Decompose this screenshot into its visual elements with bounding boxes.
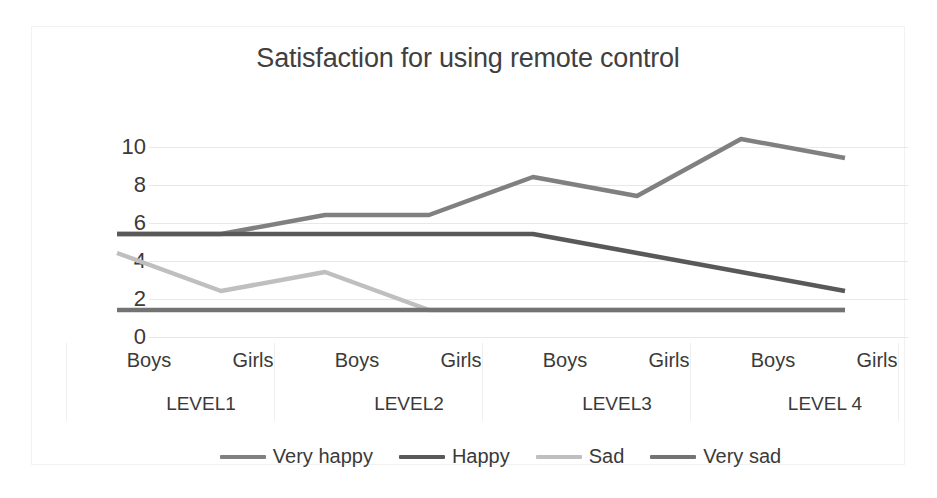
x-axis-category-label: Girls: [409, 349, 513, 372]
legend-label: Sad: [589, 445, 625, 468]
x-axis-category-label: Girls: [825, 349, 929, 372]
legend-item-very-sad[interactable]: Very sad: [650, 445, 781, 468]
gridline: [149, 185, 908, 186]
x-axis-category-labels: BoysGirlsBoysGirlsBoysGirlsBoysGirls: [149, 349, 877, 387]
x-axis-category-label: Boys: [721, 349, 825, 372]
axis-separator: [66, 343, 67, 421]
x-axis-category-label: Boys: [513, 349, 617, 372]
y-axis-tick-label: 10: [60, 134, 146, 160]
x-axis-category-label: Boys: [305, 349, 409, 372]
chart-title: Satisfaction for using remote control: [32, 43, 904, 74]
legend-swatch-icon: [220, 455, 266, 459]
legend-label: Very happy: [273, 445, 373, 468]
legend-item-happy[interactable]: Happy: [399, 445, 510, 468]
x-axis-category-label: Girls: [617, 349, 721, 372]
axis-separator: [482, 343, 483, 421]
y-axis-tick-label: 2: [60, 286, 146, 312]
y-axis-tick-label: 4: [60, 248, 146, 274]
y-axis-tick-label: 6: [60, 210, 146, 236]
axis-separator: [274, 343, 275, 421]
gridline: [149, 261, 908, 262]
x-axis-group-labels: LEVEL1LEVEL2LEVEL3LEVEL 4: [149, 393, 877, 423]
legend-item-sad[interactable]: Sad: [536, 445, 625, 468]
x-axis-category-label: Boys: [97, 349, 201, 372]
axis-separator: [898, 343, 899, 421]
chart-legend: Very happyHappySadVery sad: [32, 445, 937, 468]
x-axis-category-label: Girls: [201, 349, 305, 372]
legend-swatch-icon: [536, 455, 582, 459]
legend-item-very-happy[interactable]: Very happy: [220, 445, 373, 468]
y-axis-tick-label: 0: [60, 324, 146, 350]
chart-container: Satisfaction for using remote control 02…: [31, 26, 905, 465]
legend-swatch-icon: [399, 455, 445, 459]
plot-area: 0246810: [118, 121, 908, 337]
axis-separator: [690, 343, 691, 421]
legend-label: Very sad: [703, 445, 781, 468]
gridline: [149, 299, 908, 300]
gridline: [149, 147, 908, 148]
legend-swatch-icon: [650, 455, 696, 459]
gridline: [149, 337, 908, 338]
legend-label: Happy: [452, 445, 510, 468]
gridline: [149, 223, 908, 224]
y-axis-tick-label: 8: [60, 172, 146, 198]
